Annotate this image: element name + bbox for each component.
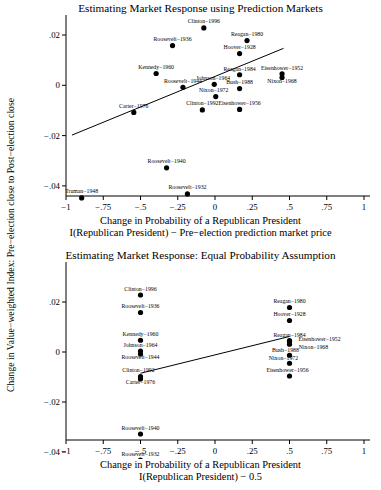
- x-tick-label: −.75: [95, 446, 112, 456]
- data-point-label: Kennedy−1960: [123, 331, 159, 337]
- y-tick-label: .02: [49, 30, 60, 40]
- shared-y-axis-label: Change in Value−weighted Index: Pre−elec…: [0, 0, 20, 490]
- y-tick-label: −.04: [44, 181, 61, 191]
- data-point: [180, 85, 185, 90]
- data-point: [237, 107, 242, 112]
- x-tick-label: .5: [286, 446, 293, 456]
- data-point: [287, 318, 292, 323]
- data-point: [164, 165, 169, 170]
- data-point: [138, 310, 143, 315]
- chart2-x-axis-title: Change in Probability of a Republican Pr…: [20, 459, 381, 483]
- data-point-label: Eisenhower−1952: [298, 336, 340, 342]
- data-point-label: Eisenhower−1956: [218, 100, 260, 106]
- data-point-label: Clinton−1996: [188, 18, 220, 24]
- data-point: [138, 292, 143, 297]
- data-point-label: Roosevelt−1936: [154, 36, 192, 42]
- data-point: [287, 373, 292, 378]
- x-tick-label: .75: [321, 446, 333, 456]
- data-point-label: Roosevelt−1940: [148, 158, 186, 164]
- x-tick-label: .25: [247, 202, 259, 212]
- x-tick-label: .75: [321, 202, 333, 212]
- y-tick-label: −.02: [44, 131, 60, 141]
- data-point: [131, 110, 136, 115]
- data-point-label: Bush−1988: [226, 79, 253, 85]
- data-point: [79, 195, 84, 200]
- x-tick-label: .5: [286, 202, 293, 212]
- chart-panel-equal-probability: Estimating Market Response: Equal Probab…: [20, 248, 381, 490]
- data-point-label: Reagan−1984: [223, 66, 255, 72]
- data-point: [200, 107, 205, 112]
- data-point-label: Carter−1976: [126, 379, 155, 385]
- chart-panel-prediction-markets: Estimating Market Response using Predict…: [20, 0, 381, 248]
- data-point: [212, 82, 217, 87]
- data-point: [237, 72, 242, 77]
- data-point: [237, 51, 242, 56]
- data-point-label: Truman−1948: [65, 188, 98, 194]
- data-point: [154, 71, 159, 76]
- x-tick-label: −1: [61, 202, 70, 212]
- data-point: [138, 431, 143, 436]
- chart1-plot-area: .020−.02−.04−1−.75−.5−.250.25.5.751Clint…: [20, 0, 381, 215]
- data-point-label: Nixon−1972: [269, 355, 298, 361]
- x-tick-label: 1: [362, 202, 366, 212]
- data-point: [170, 43, 175, 48]
- x-tick-label: −.25: [170, 446, 187, 456]
- x-tick-label: .25: [247, 446, 259, 456]
- data-point: [185, 191, 190, 196]
- chart2-plot-area: .020−.02−.04−1−.75−.5−.250.25.5.751Clint…: [20, 248, 381, 459]
- chart1-x-axis-title-line2: I(Republican President) − Pre−election p…: [20, 227, 381, 239]
- data-point-label: Roosevelt−1932: [121, 451, 159, 457]
- data-point-label: Clinton−1996: [124, 286, 156, 292]
- x-tick-label: −.5: [135, 202, 147, 212]
- data-point-label: Bush−1988: [272, 347, 299, 353]
- y-tick-label: .02: [49, 297, 60, 307]
- chart1-x-axis-title-line1: Change in Probability of a Republican Pr…: [20, 215, 381, 227]
- data-point: [287, 361, 292, 366]
- y-tick-label: 0: [56, 347, 61, 357]
- data-point-label: Roosevelt−1944: [121, 354, 159, 360]
- chart2-x-axis-title-line1: Change in Probability of a Republican Pr…: [20, 459, 381, 471]
- data-point: [244, 38, 249, 43]
- data-point-label: Hoover−1928: [223, 44, 255, 50]
- data-point-label: Eisenhower−1952: [261, 65, 303, 71]
- chart1-x-axis-title: Change in Probability of a Republican Pr…: [20, 215, 381, 239]
- data-point: [287, 305, 292, 310]
- chart2-x-axis-title-line2: I(Republican President) − 0.5: [20, 471, 381, 483]
- data-point-label: Reagan−1980: [231, 31, 263, 37]
- data-point: [237, 86, 242, 91]
- data-point-label: Roosevelt−1944: [164, 78, 202, 84]
- data-point-label: Reagan−1980: [273, 298, 305, 304]
- data-point-label: Nixon−1968: [267, 78, 296, 84]
- data-point-label: Johnson−1964: [124, 342, 158, 348]
- fit-line: [72, 48, 284, 135]
- data-point-label: Eisenhower−1956: [266, 367, 308, 373]
- x-tick-label: 0: [213, 446, 218, 456]
- data-point-label: Kennedy−1960: [138, 64, 174, 70]
- figure-container: Change in Value−weighted Index: Pre−elec…: [0, 0, 381, 490]
- data-point: [213, 94, 218, 99]
- data-point-label: Nixon−1968: [299, 344, 328, 350]
- x-tick-label: 0: [213, 202, 218, 212]
- x-tick-label: −1: [61, 446, 70, 456]
- data-point: [201, 25, 206, 30]
- data-point-label: Roosevelt−1932: [168, 184, 206, 190]
- y-tick-label: −.04: [44, 447, 61, 457]
- data-point-label: Roosevelt−1940: [121, 425, 159, 431]
- data-point-label: Hoover−1928: [273, 311, 305, 317]
- x-tick-label: 1: [362, 446, 366, 456]
- data-point-label: Nixon−1972: [199, 87, 228, 93]
- y-tick-label: 0: [56, 80, 61, 90]
- x-tick-label: −.25: [170, 202, 187, 212]
- y-tick-label: −.02: [44, 397, 60, 407]
- data-point-label: Roosevelt−1936: [121, 303, 159, 309]
- y-axis-title-text: Change in Value−weighted Index: Pre−elec…: [5, 98, 16, 392]
- data-point-label: Carter−1976: [119, 103, 148, 109]
- data-point-label: Clinton−1992: [122, 367, 154, 373]
- data-point-label: Clinton−1992: [186, 100, 218, 106]
- x-tick-label: −.75: [95, 202, 112, 212]
